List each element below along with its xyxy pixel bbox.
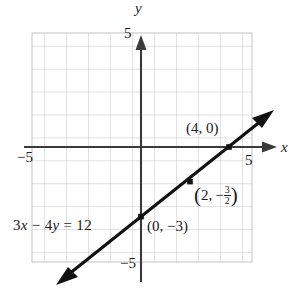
y-tick-label-neg5: −5 <box>120 256 136 271</box>
equation-var-x: x <box>21 217 28 233</box>
mid-sign: − <box>215 187 223 203</box>
x-axis-label: x <box>281 140 288 155</box>
point-marker-2-neg1p5 <box>187 179 193 185</box>
equation-equals: = <box>64 217 73 233</box>
coordinate-plane-figure: x y −5 5 5 −5 (4, 0) (0, −3) (2,−32) 3x … <box>0 0 289 289</box>
y-axis-label: y <box>135 1 142 16</box>
equation-constant: 12 <box>76 217 92 233</box>
equation-coef-a: 3 <box>13 217 21 233</box>
equation-minus: − <box>32 217 41 233</box>
equation-var-y: y <box>52 217 59 233</box>
point-marker-0-neg3 <box>138 214 144 220</box>
point-label-y-intercept: (0, −3) <box>147 219 188 234</box>
mid-x-text: 2, <box>201 187 212 203</box>
mid-fraction: 32 <box>224 185 231 206</box>
point-marker-4-0 <box>226 144 232 150</box>
mid-open-paren: ( <box>194 183 201 207</box>
point-label-x-intercept: (4, 0) <box>186 121 219 136</box>
mid-close-paren: ) <box>231 183 238 207</box>
equation-label: 3x − 4y = 12 <box>13 218 92 233</box>
x-tick-label-neg5: −5 <box>17 150 33 165</box>
y-tick-label-5: 5 <box>124 26 132 41</box>
graph-canvas <box>0 0 289 289</box>
x-tick-label-5: 5 <box>245 153 253 168</box>
mid-fraction-denominator: 2 <box>224 196 231 206</box>
point-label-mid: (2,−32) <box>194 183 238 207</box>
